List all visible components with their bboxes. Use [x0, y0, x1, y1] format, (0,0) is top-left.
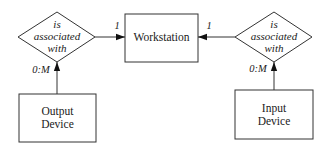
relationship-label-left: is associated with: [22, 18, 92, 54]
entity-label-output-device: Output Device: [19, 105, 96, 131]
input-device-line1: Input: [235, 102, 313, 115]
input-device-line2: Device: [235, 115, 313, 128]
cardinality-input-device: 0:M: [245, 63, 271, 75]
cardinality-left-to-workstation: 1: [112, 20, 122, 32]
rel-left-line3: with: [22, 42, 92, 54]
entity-label-workstation: Workstation: [125, 31, 198, 44]
cardinality-right-to-workstation: 1: [204, 20, 214, 32]
rel-left-line2: associated: [22, 30, 92, 42]
rel-right-line1: is: [239, 18, 309, 30]
output-device-line2: Device: [19, 118, 96, 131]
output-device-line1: Output: [19, 105, 96, 118]
rel-right-line3: with: [239, 42, 309, 54]
relationship-label-right: is associated with: [239, 18, 309, 54]
cardinality-output-device: 0:M: [28, 64, 54, 76]
entity-label-input-device: Input Device: [235, 102, 313, 128]
rel-right-line2: associated: [239, 30, 309, 42]
rel-left-line1: is: [22, 18, 92, 30]
